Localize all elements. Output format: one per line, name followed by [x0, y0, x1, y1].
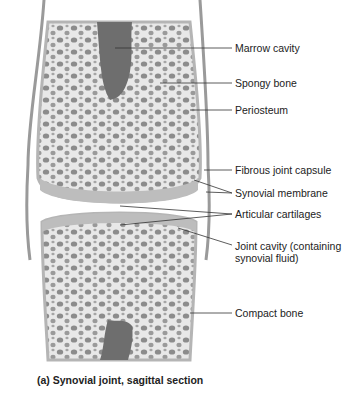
label-periosteum: Periosteum: [235, 104, 288, 116]
label-fibrous-joint-capsule: Fibrous joint capsule: [235, 164, 331, 176]
label-joint-cavity-line1: Joint cavity (containing: [235, 240, 341, 252]
lower-bone: [42, 213, 196, 360]
label-joint-cavity-line2: synovial fluid): [235, 252, 341, 264]
label-articular-cartilages: Articular cartilages: [235, 208, 321, 220]
upper-bone: [38, 22, 201, 204]
label-spongy-bone: Spongy bone: [235, 77, 297, 89]
label-synovial-membrane: Synovial membrane: [235, 187, 328, 199]
label-compact-bone: Compact bone: [235, 307, 303, 319]
label-marrow-cavity: Marrow cavity: [235, 42, 300, 54]
figure-caption: (a) Synovial joint, sagittal section: [37, 374, 203, 386]
label-joint-cavity: Joint cavity (containing synovial fluid): [235, 240, 341, 264]
